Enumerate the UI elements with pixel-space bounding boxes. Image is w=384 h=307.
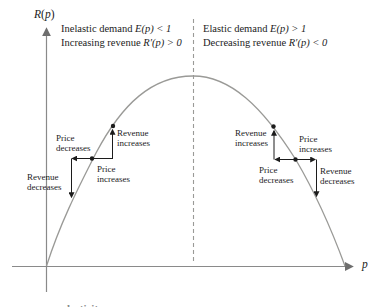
clipped-bottom-caption: elasticity	[62, 302, 132, 307]
inelastic-demand-line: Inelastic demand E(p) < 1	[61, 22, 182, 36]
label-revenue-increases-right: Revenue increases	[235, 128, 268, 148]
label-revenue-decreases-left: Revenue decreases	[27, 172, 61, 192]
label-price-increases-left: Price increases	[97, 164, 130, 184]
label-price-decreases-left: Price decreases	[56, 133, 90, 153]
label-price-decreases-right: Price decreases	[259, 165, 293, 185]
label-revenue-increases-left: Revenue increases	[117, 128, 150, 148]
x-axis-label: p	[362, 258, 368, 270]
right-upper-curve-point	[271, 124, 275, 128]
elastic-region-header: Elastic demand E(p) > 1 Decreasing reven…	[203, 22, 327, 49]
y-axis-label: R(p)	[34, 8, 54, 20]
label-price-increases-right: Price increases	[299, 134, 332, 154]
inelastic-region-header: Inelastic demand E(p) < 1 Increasing rev…	[61, 22, 182, 49]
revenue-elasticity-figure: R(p) p Inelastic demand E(p) < 1 Increas…	[0, 0, 384, 307]
elastic-demand-line: Elastic demand E(p) > 1	[203, 22, 327, 36]
left-upper-curve-point	[111, 124, 115, 128]
increasing-revenue-line: Increasing revenue R′(p) > 0	[61, 36, 182, 50]
left-curve-point	[90, 156, 94, 160]
decreasing-revenue-line: Decreasing revenue R′(p) < 0	[203, 36, 327, 50]
right-curve-point	[293, 157, 297, 161]
revenue-curve	[47, 76, 346, 266]
label-revenue-decreases-right: Revenue decreases	[320, 166, 354, 186]
